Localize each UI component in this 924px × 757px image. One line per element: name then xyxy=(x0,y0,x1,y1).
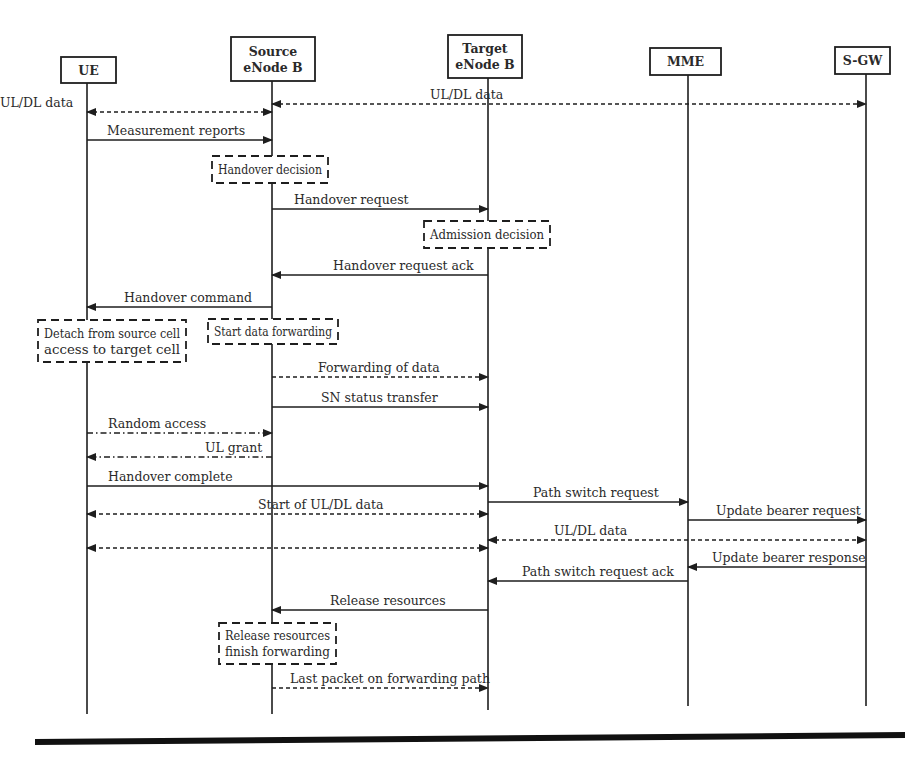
message-arrow: Handover request ack xyxy=(272,258,488,275)
message-arrow: Update bearer response xyxy=(688,550,866,567)
message-arrow: Last packet on forwarding path xyxy=(272,671,490,688)
message-arrow: Handover command xyxy=(87,290,272,307)
participant-label: UE xyxy=(78,63,98,78)
participant-label: Target xyxy=(462,41,507,56)
message-arrow: Forwarding of data xyxy=(272,360,488,377)
messages: UL/DL dataUL/DL dataMeasurement reportsH… xyxy=(0,87,866,688)
message-label: Path switch request xyxy=(533,485,659,500)
message-arrow: Path switch request ack xyxy=(488,564,688,581)
participant-label: S-GW xyxy=(843,53,883,68)
note-label: Admission decision xyxy=(429,227,544,242)
sequence-diagram: UESourceeNode BTargeteNode BMMES-GW Hand… xyxy=(0,0,924,757)
message-label: Forwarding of data xyxy=(318,360,440,375)
message-arrow: SN status transfer xyxy=(272,390,488,407)
message-arrow: Start of UL/DL data xyxy=(87,497,488,514)
message-label: Handover request ack xyxy=(333,258,474,273)
participant-target: TargeteNode B xyxy=(448,35,522,78)
bottom-rule xyxy=(35,735,905,742)
note-box: Admission decision xyxy=(424,221,550,248)
message-label: UL/DL data xyxy=(430,87,504,102)
note-box: Start data forwarding xyxy=(208,319,338,344)
notes: Handover decisionAdmission decisionDetac… xyxy=(38,156,550,664)
message-arrow: UL grant xyxy=(87,440,272,457)
message-label: Last packet on forwarding path xyxy=(290,671,490,686)
message-label: Measurement reports xyxy=(107,123,245,138)
note-label: Start data forwarding xyxy=(214,324,332,339)
footer-rule xyxy=(35,735,905,742)
message-arrow: Random access xyxy=(87,416,272,433)
message-arrow: Measurement reports xyxy=(87,123,272,140)
note-label: Handover decision xyxy=(218,162,322,177)
message-arrow: UL/DL data xyxy=(0,95,272,112)
message-label: Update bearer request xyxy=(716,503,861,518)
message-label: Handover complete xyxy=(108,469,233,484)
note-label: Detach from source cell xyxy=(44,326,180,341)
message-label: SN status transfer xyxy=(321,390,438,405)
participants: UESourceeNode BTargeteNode BMMES-GW xyxy=(61,35,890,83)
lifelines xyxy=(87,74,866,714)
participant-sgw: S-GW xyxy=(835,47,890,74)
participant-ue: UE xyxy=(61,57,116,83)
participant-label: eNode B xyxy=(243,60,302,75)
message-label: Release resources xyxy=(330,593,446,608)
message-arrow: UL/DL data xyxy=(272,87,866,104)
note-box: Handover decision xyxy=(212,156,328,183)
participant-mme: MME xyxy=(650,48,721,75)
note-label: Release resources xyxy=(225,628,330,643)
message-label: UL/DL data xyxy=(0,95,74,110)
message-label: Update bearer response xyxy=(712,550,866,565)
message-arrow: UL/DL data xyxy=(488,523,866,540)
participant-source: SourceeNode B xyxy=(231,37,315,81)
note-label: access to target cell xyxy=(44,342,180,357)
message-arrow: Handover complete xyxy=(87,469,488,486)
message-arrow: Path switch request xyxy=(488,485,688,502)
message-arrow: Update bearer request xyxy=(688,503,866,520)
message-label: UL grant xyxy=(205,440,262,455)
note-label: finish forwarding xyxy=(225,644,330,659)
note-box: Detach from source cellaccess to target … xyxy=(38,320,186,362)
message-label: Path switch request ack xyxy=(522,564,674,579)
message-arrow: Handover request xyxy=(272,192,488,209)
message-arrow: Release resources xyxy=(272,593,488,610)
message-label: Start of UL/DL data xyxy=(258,497,384,512)
participant-label: eNode B xyxy=(455,57,514,72)
participant-label: MME xyxy=(667,54,704,69)
message-label: Handover command xyxy=(124,290,252,305)
note-box: Release resourcesfinish forwarding xyxy=(219,623,336,664)
message-label: Random access xyxy=(108,416,206,431)
participant-label: Source xyxy=(249,44,298,59)
message-label: Handover request xyxy=(294,192,409,207)
message-label: UL/DL data xyxy=(554,523,628,538)
